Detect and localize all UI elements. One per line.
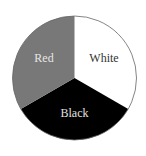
pie-slices — [13, 16, 137, 140]
slice-label-black: Black — [61, 106, 89, 120]
slice-label-red: Red — [34, 51, 53, 65]
pie-chart: Red White Black — [0, 0, 146, 156]
slice-label-white: White — [89, 51, 118, 65]
